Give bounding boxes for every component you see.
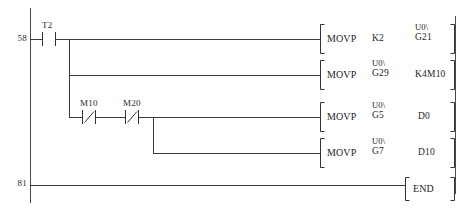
wire-rung-2 xyxy=(69,75,320,76)
wire-t2-to-branch xyxy=(56,39,70,40)
operand-source-prefix: U0\ xyxy=(372,100,385,110)
contact-t2[interactable] xyxy=(42,32,56,46)
contact-m10-label: M10 xyxy=(80,98,98,108)
operand-source-prefix: U0\ xyxy=(372,136,385,146)
instruction-mnemonic: MOVP xyxy=(327,69,356,80)
wire-rung-4 xyxy=(153,153,320,154)
bracket-open-icon xyxy=(320,24,325,54)
step-number-58: 58 xyxy=(5,33,27,43)
left-power-rail xyxy=(30,8,31,203)
step-number-81: 81 xyxy=(5,178,27,188)
operand-source: U0\ G5 xyxy=(372,100,385,121)
wire-m10-to-m20 xyxy=(96,117,125,118)
operand-destination-device: D10 xyxy=(418,147,435,158)
operand-source-device: K2 xyxy=(372,33,384,44)
operand-destination-prefix: U0\ xyxy=(415,22,432,32)
right-power-rail xyxy=(455,16,456,194)
operand-source-prefix: U0\ xyxy=(372,58,389,68)
operand-source-device: G7 xyxy=(372,146,385,157)
contact-m20-label: M20 xyxy=(123,98,141,108)
instruction-block-rung-3[interactable]: MOVP U0\ G5 D0 xyxy=(320,102,455,132)
operand-destination-device: K4M10 xyxy=(415,69,446,80)
wire-rung-3 xyxy=(139,117,320,118)
contact-nc-slash-icon xyxy=(83,110,96,124)
operand-destination: K4M10 xyxy=(415,69,446,80)
branch-bus-secondary xyxy=(153,117,154,153)
instruction-mnemonic: END xyxy=(413,183,434,194)
contact-nc-slash-icon xyxy=(126,110,139,124)
instruction-mnemonic: MOVP xyxy=(327,147,356,158)
operand-source: U0\ G29 xyxy=(372,58,389,79)
instruction-block-end[interactable]: END xyxy=(405,174,455,204)
bracket-close-icon xyxy=(450,24,455,54)
operand-destination: D10 xyxy=(418,147,435,158)
contact-t2-label: T2 xyxy=(42,20,52,30)
bracket-close-icon xyxy=(450,138,455,168)
operand-destination: U0\ G21 xyxy=(415,22,432,43)
bracket-open-icon xyxy=(405,174,410,204)
contact-bar-left xyxy=(42,32,43,46)
wire-rung-end xyxy=(30,185,405,186)
contact-m10[interactable] xyxy=(82,110,96,124)
wire-rail-to-t2 xyxy=(30,39,42,40)
bracket-close-icon xyxy=(450,60,455,90)
operand-source-device: G5 xyxy=(372,110,385,121)
bracket-open-icon xyxy=(320,102,325,132)
ladder-diagram-canvas: 58 81 T2 M10 M20 xyxy=(0,0,476,215)
operand-source: U0\ G7 xyxy=(372,136,385,157)
instruction-block-rung-4[interactable]: MOVP U0\ G7 D10 xyxy=(320,138,455,168)
instruction-mnemonic: MOVP xyxy=(327,33,356,44)
bracket-open-icon xyxy=(320,138,325,168)
bracket-close-icon xyxy=(450,102,455,132)
operand-destination: D0 xyxy=(418,111,430,122)
operand-destination-device: D0 xyxy=(418,111,430,122)
wire-branch-to-m10 xyxy=(69,117,82,118)
operand-destination-device: G21 xyxy=(415,32,432,43)
bracket-open-icon xyxy=(320,60,325,90)
instruction-block-rung-2[interactable]: MOVP U0\ G29 K4M10 xyxy=(320,60,455,90)
operand-source-device: G29 xyxy=(372,68,389,79)
wire-rung-1 xyxy=(69,39,320,40)
instruction-block-rung-1[interactable]: MOVP K2 U0\ G21 xyxy=(320,24,455,54)
instruction-mnemonic: MOVP xyxy=(327,111,356,122)
branch-bus-main xyxy=(69,39,70,117)
contact-m20[interactable] xyxy=(125,110,139,124)
bracket-close-icon xyxy=(450,174,455,204)
operand-source: K2 xyxy=(372,33,384,44)
